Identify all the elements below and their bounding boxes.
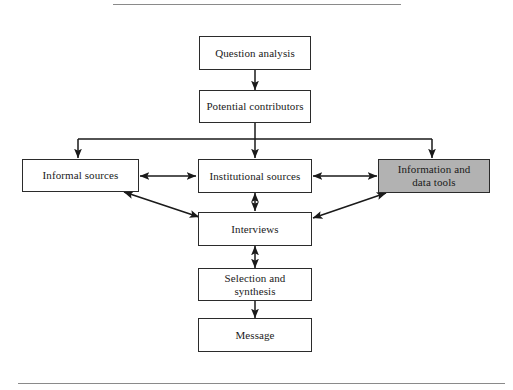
bottom-horizontal-rule bbox=[18, 383, 505, 384]
edge-tools-interviews bbox=[313, 193, 386, 218]
node-label: Message bbox=[231, 329, 278, 342]
edge-informal-interviews bbox=[124, 192, 199, 217]
node-message[interactable]: Message bbox=[198, 318, 312, 352]
node-interviews[interactable]: Interviews bbox=[198, 212, 312, 246]
node-institutional-sources[interactable]: Institutional sources bbox=[198, 159, 312, 193]
node-information-and-data-tools[interactable]: Information and data tools bbox=[378, 159, 490, 193]
node-label: Selection and synthesis bbox=[199, 272, 311, 297]
top-horizontal-rule bbox=[113, 4, 401, 5]
node-label: Institutional sources bbox=[205, 170, 304, 183]
node-informal-sources[interactable]: Informal sources bbox=[22, 159, 139, 192]
node-label: Interviews bbox=[227, 223, 282, 236]
node-selection-and-synthesis[interactable]: Selection and synthesis bbox=[198, 268, 312, 301]
node-label: Information and data tools bbox=[394, 163, 475, 188]
node-label: Question analysis bbox=[211, 47, 299, 60]
node-question-analysis[interactable]: Question analysis bbox=[199, 36, 311, 70]
diagram-canvas: Question analysis Potential contributors… bbox=[0, 0, 513, 390]
node-label: Potential contributors bbox=[202, 100, 307, 113]
node-label: Informal sources bbox=[39, 169, 123, 182]
node-potential-contributors[interactable]: Potential contributors bbox=[199, 90, 311, 123]
